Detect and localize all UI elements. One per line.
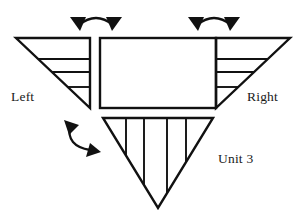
top-right-arrow-head-start bbox=[188, 17, 204, 31]
bottom-unit-triangle-outline bbox=[103, 118, 213, 208]
top-left-articulation-arrow bbox=[70, 17, 122, 31]
center-body-rectangle-outline bbox=[100, 38, 216, 108]
bottom-left-arrow-head-end bbox=[86, 143, 101, 157]
label-right: Right bbox=[247, 89, 278, 105]
top-left-arrow-head-end bbox=[106, 17, 122, 31]
bottom-unit-triangle bbox=[103, 118, 213, 208]
bottom-left-arrow-head-start bbox=[64, 120, 79, 135]
diagram-canvas: Left Right Unit 3 bbox=[0, 0, 304, 223]
diagram-figure bbox=[0, 0, 304, 223]
label-left: Left bbox=[11, 89, 34, 105]
label-unit-3: Unit 3 bbox=[218, 151, 253, 167]
center-body-rectangle bbox=[100, 38, 216, 108]
top-left-arrow-head-start bbox=[70, 17, 86, 31]
top-right-arrow-head-end bbox=[224, 17, 240, 31]
bottom-left-articulation-arrow bbox=[64, 120, 101, 157]
top-right-articulation-arrow bbox=[188, 17, 240, 31]
